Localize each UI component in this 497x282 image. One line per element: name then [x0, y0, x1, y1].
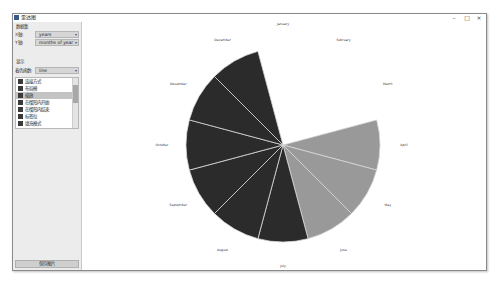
month-label: November	[170, 82, 187, 86]
close-button[interactable]: ×	[473, 14, 485, 22]
list-item[interactable]: 连接方式	[16, 78, 78, 85]
settings-panel: 数据集 X轴: years ▾ Y轴: months of year ▾ 显示 …	[13, 22, 82, 270]
month-label: June	[339, 248, 347, 252]
y-axis-label: Y轴:	[15, 39, 23, 46]
options-list[interactable]: 连接方式 布局模 缩放 在楔形内开始 在楔形内结束 标签位 填充模式	[15, 77, 79, 129]
month-label: March	[383, 82, 393, 86]
month-label: October	[156, 143, 169, 147]
list-item-label: 在楔形内结束	[25, 107, 49, 112]
month-label: April	[400, 143, 407, 147]
chevron-down-icon: ▾	[75, 40, 77, 46]
list-item-label: 布局模	[25, 86, 37, 91]
minimize-button[interactable]: –	[448, 14, 460, 22]
list-scrollbar[interactable]	[72, 78, 78, 128]
display-section-title: 显示	[16, 59, 24, 65]
list-item[interactable]: 在楔形内开始	[16, 99, 78, 106]
window-title: 雷达图	[21, 14, 36, 21]
option-icon	[18, 107, 23, 112]
y-axis-select[interactable]: months of year ▾	[35, 39, 79, 46]
month-label: July	[279, 264, 286, 268]
list-item-label: 在楔形内开始	[25, 100, 49, 105]
chart-area: JanuaryFebruaryMarchAprilMayJuneJulyAugu…	[82, 22, 486, 270]
app-icon	[14, 15, 19, 20]
list-item[interactable]: 在楔形内结束	[16, 106, 78, 113]
option-icon	[18, 114, 23, 119]
app-window: 雷达图 – □ × 数据集 X轴: years ▾ Y轴: months of …	[12, 13, 487, 271]
option-icon	[18, 79, 23, 84]
x-axis-label: X轴:	[15, 31, 24, 38]
month-label: August	[217, 248, 229, 252]
x-axis-select[interactable]: years ▾	[35, 31, 79, 38]
list-item-label: 连接方式	[25, 79, 41, 84]
month-label: September	[169, 203, 187, 207]
shading-function-select[interactable]: line ▾	[35, 67, 79, 74]
option-icon	[18, 86, 23, 91]
chevron-down-icon: ▾	[75, 32, 77, 38]
scroll-thumb[interactable]	[73, 85, 78, 103]
data-section-title: 数据集	[16, 24, 28, 30]
chevron-down-icon: ▾	[75, 68, 77, 74]
list-item[interactable]: 标签位	[16, 113, 78, 120]
month-label: December	[214, 38, 231, 42]
list-item-selected[interactable]: 缩放	[16, 92, 78, 99]
option-icon	[18, 93, 23, 98]
option-icon	[18, 100, 23, 105]
list-item[interactable]: 布局模	[16, 85, 78, 92]
month-label: May	[384, 203, 391, 207]
x-axis-value: years	[39, 32, 51, 37]
list-item-label: 缩放	[25, 93, 33, 98]
y-axis-value: months of year	[39, 40, 73, 45]
polar-area-chart: JanuaryFebruaryMarchAprilMayJuneJulyAugu…	[82, 22, 488, 271]
month-label: January	[276, 22, 289, 26]
shading-function-label: 着色函数:	[15, 67, 33, 74]
month-label: February	[336, 38, 350, 42]
list-item-label: 标签位	[25, 114, 37, 119]
option-icon	[18, 121, 23, 126]
list-item[interactable]: 填充模式	[16, 120, 78, 127]
shading-function-value: line	[39, 68, 47, 73]
list-item-label: 填充模式	[25, 121, 41, 126]
maximize-button[interactable]: □	[461, 14, 473, 22]
save-image-button[interactable]: 保存图片	[15, 260, 79, 268]
